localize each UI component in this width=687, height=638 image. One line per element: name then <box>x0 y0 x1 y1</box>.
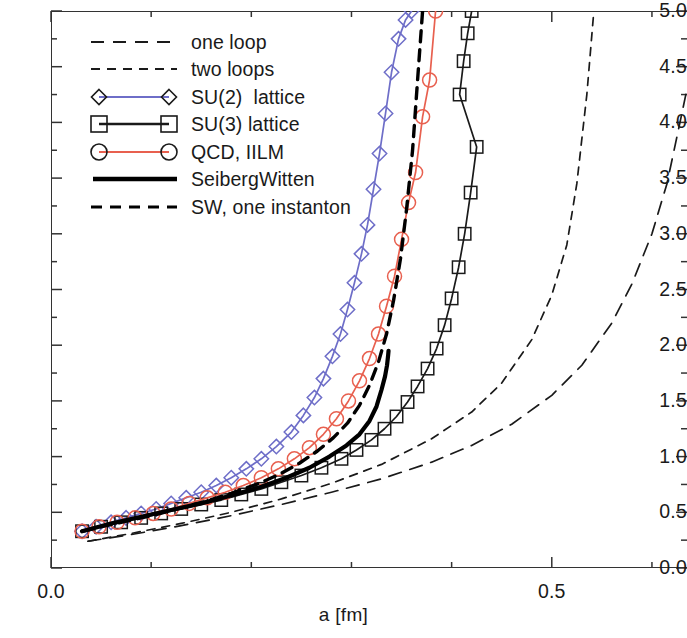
legend: one looptwo loopsSU(2) latticeSU(3) latt… <box>85 28 385 221</box>
y-tick-label: 5.0 <box>643 1 687 21</box>
y-tick-label: 3.5 <box>643 168 687 188</box>
legend-label: one loop <box>191 32 267 52</box>
legend-label: QCD, IILM <box>191 142 284 162</box>
legend-item-0: one loop <box>85 28 385 56</box>
x-tick-label: 0.0 <box>21 582 81 602</box>
chart-root: 5.04.54.03.53.02.52.01.51.00.50.0 0.00.5… <box>0 0 687 638</box>
legend-item-4: QCD, IILM <box>85 138 385 166</box>
square-line-icon <box>85 112 183 136</box>
x-axis-title: a [fm] <box>0 604 687 626</box>
legend-label: two loops <box>191 59 274 79</box>
legend-label: SW, one instanton <box>191 197 351 217</box>
legend-item-2: SU(2) lattice <box>85 83 385 111</box>
y-tick-label: 4.0 <box>643 112 687 132</box>
y-tick-label: 2.5 <box>643 280 687 300</box>
y-tick-label: 0.5 <box>643 502 687 522</box>
y-tick-label: 3.0 <box>643 224 687 244</box>
long-dash-icon <box>85 30 183 54</box>
dash-icon <box>85 195 183 219</box>
y-tick-label: 1.5 <box>643 391 687 411</box>
diamond-line-icon <box>85 85 183 109</box>
y-tick-label: 2.0 <box>643 335 687 355</box>
y-tick-label: 1.0 <box>643 447 687 467</box>
legend-label: SU(2) lattice <box>191 87 305 107</box>
thick-solid-icon <box>85 167 183 191</box>
y-tick-label: 0.0 <box>643 558 687 578</box>
legend-item-6: SW, one instanton <box>85 193 385 221</box>
y-tick-label: 4.5 <box>643 57 687 77</box>
circle-line-icon <box>85 140 183 164</box>
legend-label: SeibergWitten <box>191 169 315 189</box>
x-tick-label: 0.5 <box>522 582 582 602</box>
short-dash-icon <box>85 57 183 81</box>
legend-label: SU(3) lattice <box>191 114 300 134</box>
legend-item-1: two loops <box>85 56 385 84</box>
legend-item-3: SU(3) lattice <box>85 111 385 139</box>
legend-item-5: SeibergWitten <box>85 166 385 194</box>
